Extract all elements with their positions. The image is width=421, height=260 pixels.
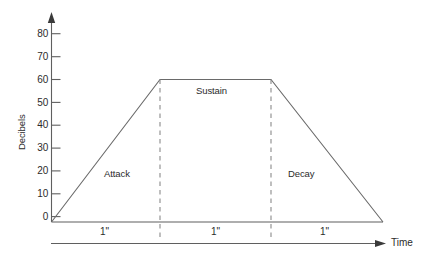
y-tick-label-70: 70 xyxy=(26,52,48,62)
sustain-label: Sustain xyxy=(196,85,227,96)
envelope-chart: 80 70 60 50 40 30 20 10 0 Decibels Attac… xyxy=(0,0,421,260)
duration-label-sustain: 1" xyxy=(211,226,220,237)
chart-plot-area xyxy=(0,0,421,260)
y-tick-label-0: 0 xyxy=(26,212,48,222)
duration-label-decay: 1" xyxy=(320,226,329,237)
x-axis-title: Time xyxy=(391,237,413,248)
y-tick-label-50: 50 xyxy=(26,98,48,108)
y-tick-label-80: 80 xyxy=(26,29,48,39)
y-tick-label-20: 20 xyxy=(26,166,48,176)
y-tick-label-30: 30 xyxy=(26,143,48,153)
y-axis xyxy=(48,12,55,222)
y-axis-ticks xyxy=(52,34,61,217)
duration-label-attack: 1" xyxy=(100,226,109,237)
decay-label: Decay xyxy=(288,168,314,179)
envelope-curve xyxy=(52,80,384,223)
segment-divider-lines xyxy=(160,80,271,239)
y-axis-title: Decibels xyxy=(16,114,27,150)
y-tick-label-10: 10 xyxy=(26,189,48,199)
x-axis xyxy=(51,240,386,247)
y-tick-label-60: 60 xyxy=(26,75,48,85)
attack-label: Attack xyxy=(104,168,130,179)
y-tick-label-40: 40 xyxy=(26,120,48,130)
